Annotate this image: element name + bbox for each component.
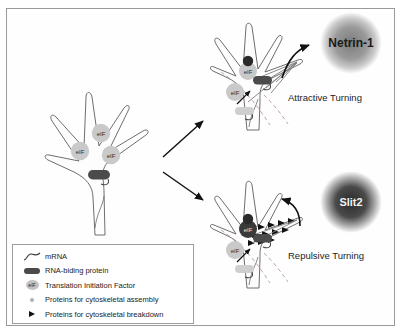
- legend-box: mRNA RNA-biding protein eIF Translation …: [12, 244, 194, 324]
- center-growth-cone: eIF eIF eIF: [45, 93, 148, 236]
- netrin-cue-blob: Netrin-1: [320, 12, 382, 74]
- eif-label: eIF: [231, 90, 240, 96]
- eif-label: eIF: [76, 149, 85, 155]
- legend-label: mRNA: [45, 252, 67, 261]
- eif-icon-text: eIF: [26, 280, 39, 290]
- attractive-growth-cone: eIF eIF: [210, 23, 309, 130]
- legend-label: RNA-biding protein: [45, 266, 108, 275]
- eif-label: eIF: [231, 248, 240, 254]
- slit2-cue-blob: Slit2: [320, 171, 382, 233]
- arrow-to-attractive: [163, 121, 203, 157]
- slit2-label: Slit2: [339, 196, 362, 208]
- netrin-label: Netrin-1: [328, 36, 374, 50]
- legend-item-translation-initiation-factor: eIF Translation Initiation Factor: [13, 278, 193, 293]
- legend-label: Translation Initiation Factor: [45, 281, 135, 290]
- rna-binding-protein-icon: [19, 268, 45, 275]
- repulsive-growth-cone: eIF eIF: [210, 181, 302, 288]
- legend-label: Proteins for cytoskeletal breakdown: [45, 310, 163, 319]
- eif-label: eIF: [244, 227, 253, 233]
- legend-item-rna-binding-protein: RNA-biding protein: [13, 264, 193, 279]
- growth-cone-signaling-figure: eIF eIF eIF: [0, 0, 403, 335]
- attractive-turning-label: Attractive Turning: [288, 92, 362, 103]
- arrow-to-repulsive: [163, 172, 203, 200]
- translation-dot: [243, 56, 253, 66]
- repulsive-turning-label: Repulsive Turning: [288, 250, 364, 261]
- eif-label: eIF: [97, 131, 106, 137]
- translation-initiation-factor-icon: eIF: [19, 280, 45, 290]
- legend-item-mrna: mRNA: [13, 249, 193, 264]
- breakdown-triangle-icon: [19, 311, 45, 317]
- turning-axis-dashed-2: [264, 253, 288, 282]
- eif-label: eIF: [107, 153, 116, 159]
- legend-label: Proteins for cytoskeletal assembly: [45, 295, 158, 304]
- translation-dot: [243, 214, 253, 224]
- legend-item-cytoskeletal-breakdown: Proteins for cytoskeletal breakdown: [13, 307, 193, 322]
- transition-arrows: [163, 121, 203, 200]
- turning-axis-dashed-2: [264, 95, 288, 124]
- eif-label: eIF: [244, 69, 253, 75]
- mrna-squiggle-icon: [19, 251, 45, 262]
- assembly-dot-icon: [19, 298, 45, 302]
- legend-item-cytoskeletal-assembly: Proteins for cytoskeletal assembly: [13, 293, 193, 308]
